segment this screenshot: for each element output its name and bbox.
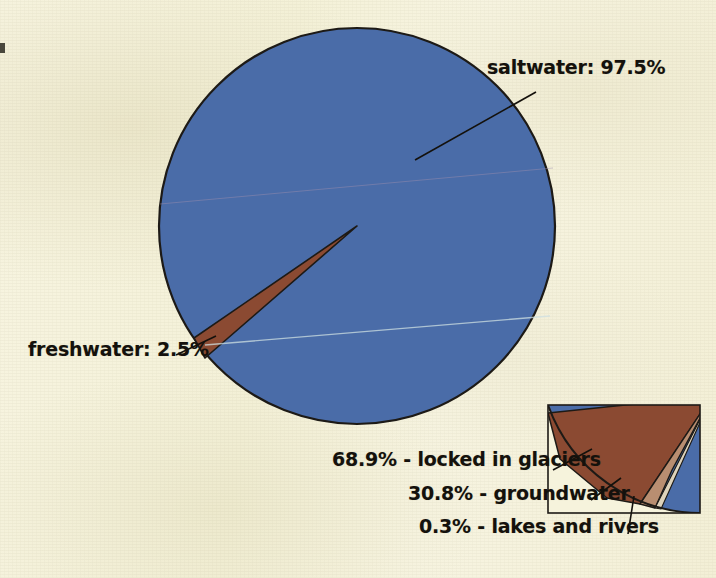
label-lakes-and-rivers: 0.3% - lakes and rivers: [419, 515, 659, 537]
label-groundwater: 30.8% - groundwater: [408, 482, 630, 504]
label-glaciers: 68.9% - locked in glaciers: [332, 448, 601, 470]
label-saltwater: saltwater: 97.5%: [487, 56, 665, 78]
label-freshwater: freshwater: 2.5%: [28, 338, 209, 360]
figure-canvas: saltwater: 97.5% freshwater: 2.5% 68.9% …: [0, 0, 716, 578]
